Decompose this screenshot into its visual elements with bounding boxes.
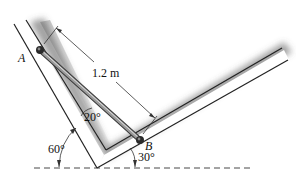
diagram-svg: A B 1.2 m 20° 60° 30° [0,0,296,186]
label-angle-right-wall: 30° [138,150,155,164]
label-angle-left-wall: 60° [48,142,65,156]
groove-shadow [30,18,292,160]
label-angle-rod: 20° [84,110,101,124]
pin-b [136,136,144,144]
right-wall [90,48,290,168]
label-point-a: A [17,51,26,65]
pin-a [36,46,44,54]
diagram-canvas: A B 1.2 m 20° 60° 30° [0,0,296,186]
label-length: 1.2 m [92,66,120,80]
